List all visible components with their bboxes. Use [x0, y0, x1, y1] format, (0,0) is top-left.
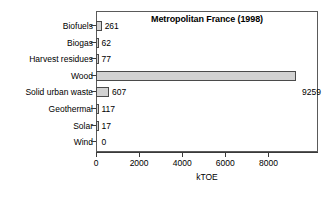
category-label-biofuels: Biofuels: [63, 18, 93, 34]
x-tick-mark: [225, 152, 226, 157]
x-tick-mark: [268, 152, 269, 157]
chart-figure: Metropolitan France (1998) Biofuels261Bi…: [0, 0, 331, 198]
bar-row: Solar17: [0, 118, 331, 134]
bar-row: Solid urban waste607: [0, 84, 331, 100]
bar-row: Biogas62: [0, 35, 331, 51]
bar-wood: [96, 71, 296, 81]
bar-solar: [96, 121, 99, 131]
bar-harvest-residues: [96, 54, 99, 64]
value-label-geothermal: 117: [102, 101, 116, 117]
x-tick-label: 4000: [173, 158, 192, 168]
bar-solid-urban-waste: [96, 87, 109, 97]
bar-row: Harvest residues77: [0, 51, 331, 67]
category-tick: [91, 141, 96, 142]
category-label-wind: Wind: [74, 134, 93, 150]
value-label-biogas: 62: [102, 35, 111, 51]
bar-biogas: [96, 38, 99, 48]
x-axis-line: [96, 152, 318, 153]
x-axis-title: kTOE: [96, 172, 318, 182]
bar-biofuels: [96, 21, 102, 31]
category-label-wood: Wood: [71, 68, 93, 84]
value-label-wind: 0: [102, 134, 107, 150]
x-tick-label: 0: [94, 158, 99, 168]
x-tick-mark: [139, 152, 140, 157]
bar-row: Wood9259: [0, 68, 331, 84]
x-tick-label: 2000: [130, 158, 149, 168]
bar-row: Wind0: [0, 134, 331, 150]
value-label-solar: 17: [102, 118, 111, 134]
category-label-geothermal: Geothermal: [49, 101, 93, 117]
category-label-biogas: Biogas: [67, 35, 93, 51]
bar-row: Geothermal117: [0, 101, 331, 117]
bar-geothermal: [96, 104, 99, 114]
x-tick-label: 6000: [216, 158, 235, 168]
x-tick-label: 8000: [259, 158, 278, 168]
bar-row: Biofuels261: [0, 18, 331, 34]
value-label-solid-urban-waste: 607: [112, 84, 126, 100]
x-tick-mark: [182, 152, 183, 157]
value-label-biofuels: 261: [105, 18, 119, 34]
x-tick-mark: [96, 152, 97, 157]
category-label-solid-urban-waste: Solid urban waste: [25, 84, 93, 100]
category-label-harvest-residues: Harvest residues: [29, 51, 93, 67]
value-label-harvest-residues: 77: [102, 51, 111, 67]
category-label-solar: Solar: [73, 118, 93, 134]
